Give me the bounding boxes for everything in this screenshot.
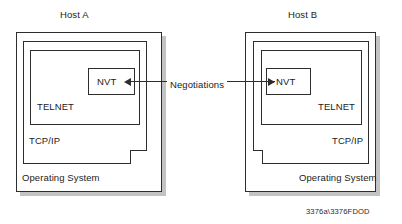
host-a-nvt-label: NVT [97, 77, 116, 87]
host-a-telnet-label: TELNET [37, 102, 74, 112]
negotiation-arrowhead-right [268, 78, 275, 86]
host-b-tcp-ip-label: TCP/IP [332, 136, 363, 146]
negotiation-arrowhead-left [124, 78, 131, 86]
host-b-nvt-label: NVT [276, 77, 295, 87]
telnet-nvt-negotiation-diagram: Host A Operating System TCP/IP TELNET NV… [0, 0, 402, 224]
host-b-operating-system-label: Operating System [299, 173, 377, 183]
host-a-operating-system-label: Operating System [22, 173, 100, 183]
host-b-telnet-label: TELNET [318, 102, 355, 112]
negotiation-label: Negotiations [170, 79, 224, 90]
host-a-tcp-ip-label: TCP/IP [29, 136, 60, 146]
host-a-title: Host A [60, 10, 89, 20]
negotiation-label-backing: Negotiations [167, 74, 227, 89]
host-b-title: Host B [288, 10, 317, 20]
figure-caption: 3376a\3376FDOD [306, 208, 370, 216]
